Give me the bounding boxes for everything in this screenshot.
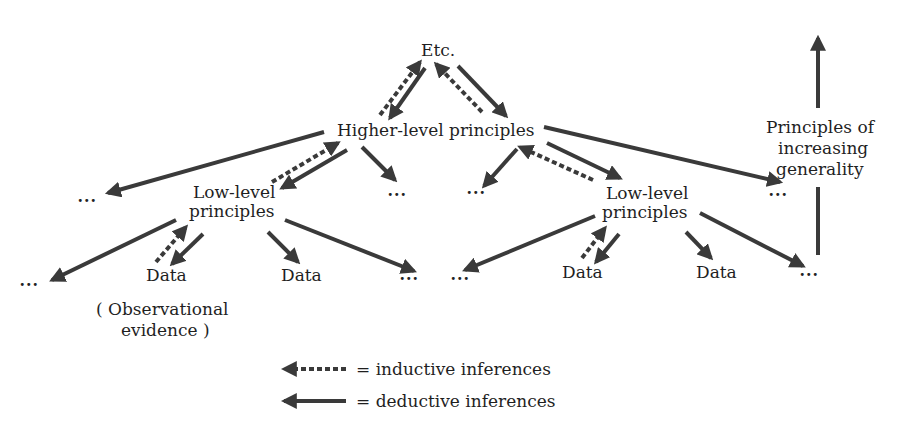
node-low-level-left-line1: Low-level: [193, 183, 275, 202]
inductive-arrow: [520, 147, 593, 180]
legend-deductive: = deductive inferences: [356, 390, 555, 412]
node-etc: Etc.: [421, 41, 455, 60]
deductive-arrow: [362, 147, 395, 180]
deductive-arrow: [686, 232, 711, 258]
deductive-arrow: [484, 149, 517, 186]
inductive-arrow: [436, 64, 482, 112]
generality-label-line2: increasing: [778, 139, 868, 158]
ellipsis-center-right: ...: [467, 178, 487, 199]
observational-evidence-line2: evidence ): [121, 321, 210, 340]
ellipsis-bottom-center-right: ...: [451, 264, 471, 285]
deductive-arrow: [700, 213, 803, 266]
node-low-level-right-line1: Low-level: [606, 184, 688, 203]
node-data-1: Data: [146, 266, 187, 285]
generality-label-line1: Principles of: [766, 118, 874, 137]
legend-inductive: = inductive inferences: [356, 358, 551, 380]
legend-inductive-label: = inductive inferences: [356, 359, 551, 379]
generality-label-line3: generality: [776, 160, 864, 179]
deductive-arrow: [172, 234, 203, 264]
node-low-level-left-line2: principles: [189, 202, 274, 221]
node-low-level-right-line2: principles: [602, 203, 687, 222]
deductive-arrow: [544, 127, 780, 182]
node-higher-level-principles: Higher-level principles: [337, 121, 534, 140]
ellipsis-center-left: ...: [388, 180, 408, 201]
ellipsis-bottom-far-right: ...: [800, 260, 820, 281]
ellipsis-bottom-far-left: ...: [20, 270, 40, 291]
deductive-arrow: [458, 66, 506, 116]
node-data-4: Data: [696, 263, 737, 282]
legend-deductive-label: = deductive inferences: [356, 391, 555, 411]
ellipsis-bottom-center-left: ...: [400, 264, 420, 285]
deductive-arrow: [547, 143, 620, 178]
deductive-arrow: [268, 232, 298, 262]
observational-evidence-line1: ( Observational: [96, 300, 229, 319]
ellipsis-far-left-mid: ...: [78, 186, 98, 207]
node-data-2: Data: [281, 266, 322, 285]
deductive-arrow: [285, 220, 414, 271]
node-data-3: Data: [562, 263, 603, 282]
ellipsis-right-mid: ...: [769, 180, 789, 201]
